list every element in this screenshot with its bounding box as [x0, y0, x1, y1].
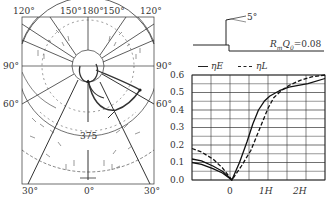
y-tick-0-5: 0.5 — [170, 87, 184, 97]
y-tick-0-4: 0.4 — [170, 105, 184, 115]
series-eta-e-line — [192, 79, 325, 181]
y-tick-0-1: 0.1 — [170, 157, 184, 167]
x-tick-1h: 1H — [259, 186, 273, 196]
y-tick-0-3: 0.3 — [170, 122, 184, 132]
y-tick-0-6: 0.6 — [170, 70, 184, 80]
x-tick-0: 0 — [227, 186, 233, 196]
y-tick-0-0: 0.0 — [170, 175, 184, 185]
y-tick-0-2: 0.2 — [170, 140, 184, 150]
x-tick-2h: 2H — [293, 186, 307, 196]
efficiency-line-chart — [0, 0, 327, 204]
